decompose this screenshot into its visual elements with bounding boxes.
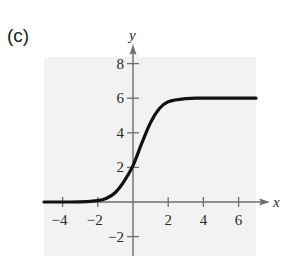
- y-tick-label: 6: [117, 90, 125, 106]
- y-axis-label: y: [127, 27, 136, 43]
- x-tick-label: 6: [235, 212, 243, 228]
- x-tick-label: −4: [52, 212, 68, 228]
- y-tick-label: 8: [117, 56, 125, 72]
- chart: −4−2246−22468xy: [0, 0, 282, 256]
- plot-background: [44, 57, 256, 256]
- y-tick-label: 2: [117, 159, 125, 175]
- x-tick-label: 4: [200, 212, 208, 228]
- x-tick-label: 2: [164, 212, 172, 228]
- y-tick-label: −2: [108, 229, 124, 245]
- x-tick-label: −2: [87, 212, 103, 228]
- x-axis-label: x: [272, 194, 280, 210]
- y-tick-label: 4: [117, 125, 125, 141]
